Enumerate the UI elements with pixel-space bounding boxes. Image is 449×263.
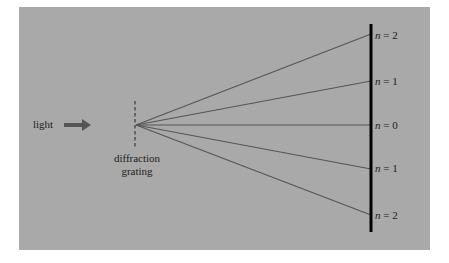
diffraction-rays <box>136 34 371 215</box>
ray-order-plus-2 <box>136 34 371 125</box>
ray-order-plus-1 <box>136 81 371 125</box>
order-label-minus-2: n = 2 <box>375 209 398 221</box>
light-arrow-icon <box>64 119 91 131</box>
ray-order-minus-2 <box>136 125 371 215</box>
grating-label: diffraction grating <box>104 152 170 178</box>
order-label-plus-1: n = 1 <box>375 75 398 87</box>
grating-label-line1: diffraction <box>104 152 170 165</box>
ray-order-minus-1 <box>136 125 371 169</box>
order-label-0: n = 0 <box>375 119 398 131</box>
grating-label-line2: grating <box>104 165 170 178</box>
light-label: light <box>33 118 53 130</box>
order-label-minus-1: n = 1 <box>375 162 398 174</box>
order-label-plus-2: n = 2 <box>375 29 398 41</box>
